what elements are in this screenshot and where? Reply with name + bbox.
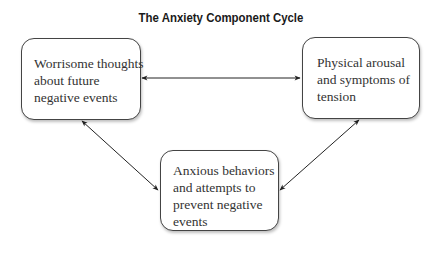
node-text-line: Anxious behaviors bbox=[173, 162, 270, 179]
node-text-line: tension bbox=[317, 88, 411, 105]
node-text-line: Physical arousal bbox=[317, 54, 411, 71]
arrow-thoughts-behaviors bbox=[82, 121, 158, 190]
node-worrisome-thoughts: Worrisome thoughts about future negative… bbox=[21, 38, 141, 120]
node-text-line: and attempts to bbox=[173, 179, 270, 196]
node-anxious-behaviors: Anxious behaviors and attempts to preven… bbox=[160, 150, 279, 231]
node-text-line: about future bbox=[34, 72, 132, 89]
node-text-line: and symptoms of bbox=[317, 71, 411, 88]
node-text-line: prevent negative bbox=[173, 196, 270, 213]
arrow-physical-behaviors bbox=[280, 120, 359, 190]
node-text-line: negative events bbox=[34, 89, 132, 106]
node-text-line: events bbox=[173, 213, 270, 230]
node-physical-arousal: Physical arousal and symptoms of tension bbox=[302, 37, 420, 119]
node-text-line: Worrisome thoughts bbox=[34, 55, 132, 72]
